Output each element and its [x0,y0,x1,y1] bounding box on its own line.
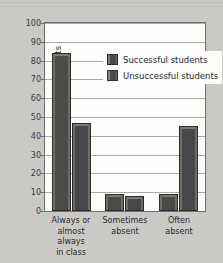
chart-figure: 1009080706050403020100 Percent of studen… [0,0,223,263]
y-axis-tick-label-50: 50 [31,113,41,122]
y-axis-tick-label-30: 30 [31,150,41,159]
y-axis-tick-label-20: 20 [31,169,41,178]
y-axis-tick-label-70: 70 [31,75,41,84]
legend-label-successful: Successful students [123,55,208,65]
bar-unsuccessful-3 [179,126,198,211]
chart-legend: Successful students Unsuccessful student… [103,51,222,84]
plot-area: 1009080706050403020100 Percent of studen… [44,22,206,212]
bar-unsuccessful-1 [72,123,91,211]
y-axis-tick-label-60: 60 [31,94,41,103]
y-axis-tick-mark-0 [41,211,45,212]
y-axis-tick-label-100: 100 [26,19,41,28]
y-axis-tick-label-90: 90 [31,37,41,46]
legend-item-unsuccessful: Unsuccessful students [107,70,218,81]
y-axis-tick-label-10: 10 [31,188,41,197]
bar-successful-3 [159,194,178,211]
bar-unsuccessful-2 [125,196,144,211]
scan-artifact-line [0,2,223,3]
bar-successful-2 [105,194,124,211]
x-axis-label-3: Oftenabsent [152,216,206,258]
bar-successful-1 [52,53,71,211]
legend-swatch-icon-successful [107,54,118,65]
y-axis-tick-label-40: 40 [31,131,41,140]
legend-swatch-icon-unsuccessful [107,70,118,81]
x-axis-label-2: Sometimesabsent [98,216,152,258]
legend-label-unsuccessful: Unsuccessful students [123,71,218,81]
legend-item-successful: Successful students [107,54,218,65]
x-axis-labels: Always oralmost alwaysin classSometimesa… [44,216,206,258]
y-axis-tick-label-80: 80 [31,56,41,65]
bar-group-1 [45,23,98,211]
x-axis-label-1: Always oralmost alwaysin class [44,216,98,258]
scan-artifact-line-secondary [0,6,223,7]
